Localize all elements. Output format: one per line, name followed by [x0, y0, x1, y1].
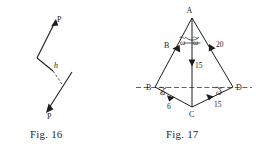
fig16-group: P P h — [37, 15, 72, 121]
fig17-bc-arrowhead-icon — [167, 95, 175, 101]
fig17-caption: Fig. 17 — [166, 128, 199, 140]
fig17-side-ad — [192, 18, 233, 87]
fig17-angle-base-left: ω — [160, 87, 166, 97]
fig17-angle-apex-left-label: ω — [180, 38, 185, 47]
fig17-magnitude-bc: 6 — [167, 102, 171, 111]
fig17-angle-base-right-label: ω — [216, 88, 221, 97]
fig16-lower-force-label: P — [47, 112, 52, 121]
fig17-vertex-label-d: D — [236, 83, 242, 92]
figure-plate: P P h — [0, 0, 260, 148]
figures-canvas: P P h — [0, 0, 260, 148]
fig16-distance-label: h — [54, 61, 58, 70]
fig17-vertex-label-c: C — [189, 110, 194, 119]
fig17-angle-base-left-label: ω — [160, 88, 165, 97]
fig17-ad-arrowhead-icon — [209, 44, 216, 52]
fig17-angle-apex-right-label: ω — [193, 38, 198, 47]
fig17-magnitude-ad: 20 — [216, 40, 224, 49]
fig16-caption: Fig. 16 — [30, 128, 63, 140]
fig17-magnitude-dc: 15 — [214, 100, 222, 109]
fig17-group: A B C D B 20 15 15 6 ω ω ω — [136, 6, 252, 119]
fig16-upper-force-label: P — [57, 15, 62, 24]
fig16-lower-force-line — [49, 72, 72, 108]
fig16-bracket-segment-left — [37, 58, 53, 71]
fig17-angle-apex-left: ω — [180, 37, 186, 47]
fig17-angle-apex-right: ω — [193, 37, 199, 47]
fig17-angle-base-right: ω — [216, 87, 222, 97]
fig17-vertex-label-a: A — [187, 6, 193, 15]
fig16-distance-leader — [53, 71, 62, 84]
fig17-vertex-label-b: B — [146, 83, 151, 92]
fig16-upper-force-line — [37, 24, 54, 58]
fig17-magnitude-ac: 15 — [195, 61, 203, 70]
fig17-apex-left-angle-arc — [186, 37, 192, 40]
fig17-side-ab — [155, 18, 192, 87]
fig17-side-ab-endpoint-label: B — [164, 41, 169, 50]
